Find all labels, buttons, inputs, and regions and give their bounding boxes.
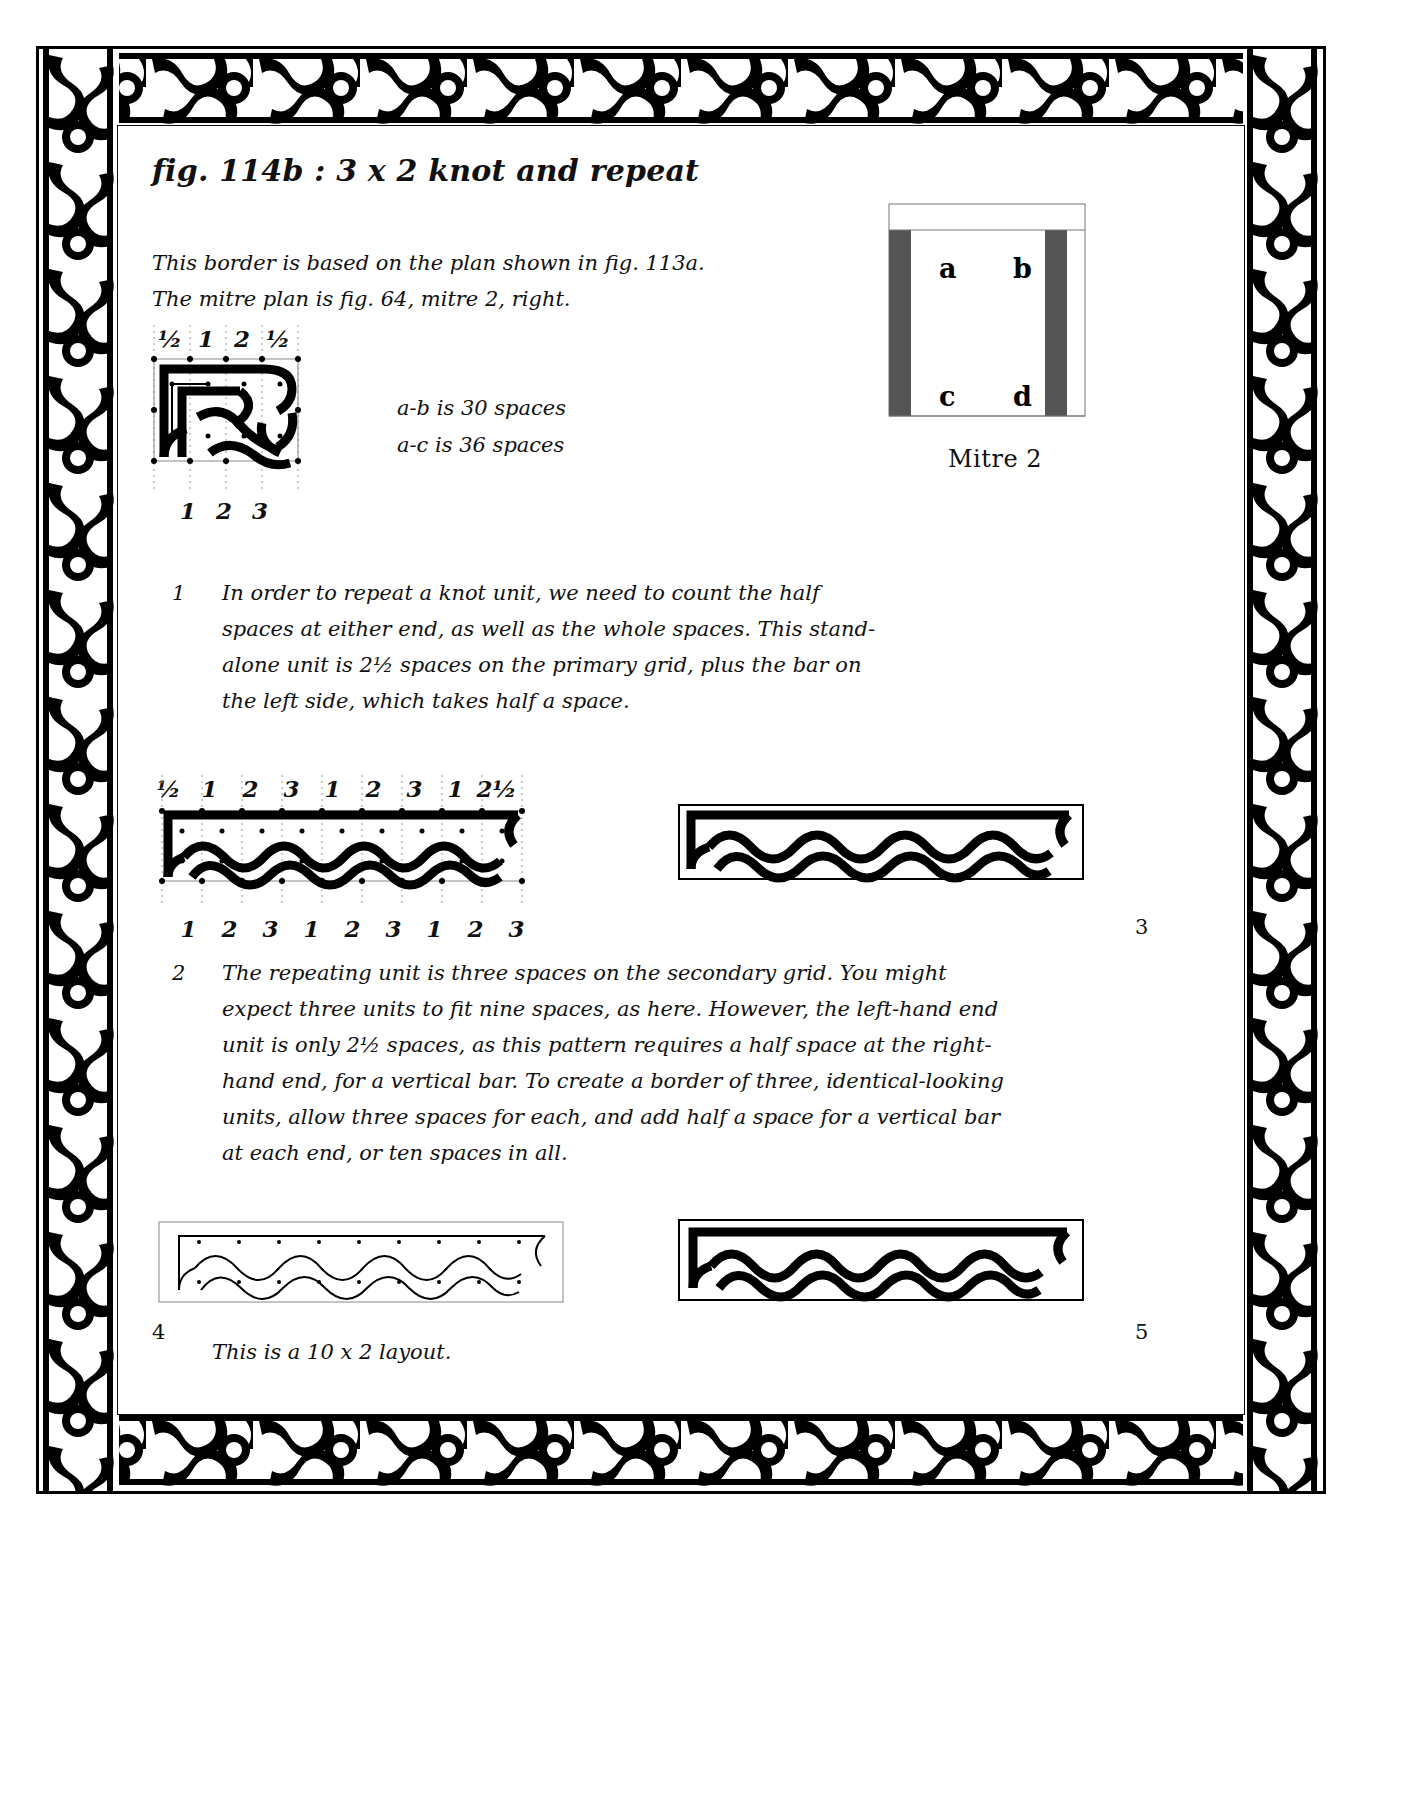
finished-border-fig5 [677, 1218, 1097, 1308]
finished-border-fig5-svg [677, 1218, 1087, 1306]
unit-top-label-2: 2 [224, 325, 260, 352]
repeat-top-label-3: 3 [271, 775, 312, 802]
intro-line-2: The mitre plan is fig. 64, mitre 2, righ… [152, 281, 852, 317]
border-knot-left [39, 49, 119, 1491]
unit-bottom-label-1: 2 [206, 497, 242, 524]
mitre-label-d: d [1013, 381, 1032, 412]
intro-line-1: This border is based on the plan shown i… [152, 245, 852, 281]
layout-caption: This is a 10 x 2 layout. [212, 1340, 451, 1364]
border-knot-top [39, 49, 1323, 127]
layout-fig4-svg [157, 1220, 567, 1308]
repeat-top-label-6: 3 [394, 775, 435, 802]
mitre-label-c: c [939, 381, 955, 412]
paragraph-2-text: The repeating unit is three spaces on th… [222, 961, 1004, 1165]
repeat-top-label-7: 1 [435, 775, 476, 802]
unit-top-label-1: 1 [188, 325, 224, 352]
unit-knot-diagram: ½ 1 2 ½ [152, 325, 327, 515]
mitre-label-b: b [1013, 253, 1032, 284]
figure-number-3: 3 [1135, 915, 1148, 939]
spaces-note-line-2: a-c is 36 spaces [397, 427, 566, 464]
repeat-top-label-0: ½ [148, 775, 189, 802]
intro-paragraph: This border is based on the plan shown i… [152, 245, 852, 317]
repeat-knot-svg [162, 809, 562, 909]
border-knot-right [1243, 49, 1323, 1491]
repeat-bottom-label-8: 3 [496, 915, 537, 942]
finished-border-fig3 [677, 803, 1097, 883]
repeat-bottom-label-0: 1 [168, 915, 209, 942]
repeat-top-label-5: 2 [353, 775, 394, 802]
repeat-bottom-label-3: 1 [291, 915, 332, 942]
page-content: fig. 114b : 3 x 2 knot and repeat This b… [117, 125, 1245, 1415]
mitre-plan-svg: a b c d [885, 200, 1105, 430]
mitre-caption: Mitre 2 [885, 445, 1105, 473]
repeat-bottom-label-5: 3 [373, 915, 414, 942]
repeat-top-label-1: 1 [189, 775, 230, 802]
repeat-top-label-2: 2 [230, 775, 271, 802]
repeat-bottom-label-7: 2 [455, 915, 496, 942]
paragraph-2-number: 2 [172, 955, 185, 991]
unit-top-label-3: ½ [260, 325, 296, 352]
finished-border-fig3-svg [677, 803, 1087, 881]
unit-top-label-0: ½ [152, 325, 188, 352]
mitre-label-a: a [939, 253, 957, 284]
page-root: fig. 114b : 3 x 2 knot and repeat This b… [0, 0, 1401, 1812]
paragraph-1: 1 In order to repeat a knot unit, we nee… [222, 575, 882, 719]
repeat-bottom-label-2: 3 [250, 915, 291, 942]
spaces-note-line-1: a-b is 30 spaces [397, 390, 566, 427]
unit-knot-svg [152, 357, 327, 492]
repeat-knot-diagram: ½ 1 2 3 1 2 3 1 2½ [152, 775, 562, 940]
repeat-bottom-label-6: 1 [414, 915, 455, 942]
paragraph-1-text: In order to repeat a knot unit, we need … [222, 581, 875, 713]
page-title: fig. 114b : 3 x 2 knot and repeat [152, 153, 699, 188]
paragraph-2: 2 The repeating unit is three spaces on … [222, 955, 1012, 1171]
layout-fig4 [157, 1220, 577, 1310]
repeat-top-label-4: 1 [312, 775, 353, 802]
mitre-plan-diagram: a b c d [885, 200, 1105, 430]
repeat-bottom-label-1: 2 [209, 915, 250, 942]
figure-number-5: 5 [1135, 1320, 1148, 1344]
spaces-note: a-b is 30 spaces a-c is 36 spaces [397, 390, 566, 464]
paragraph-1-number: 1 [172, 575, 185, 611]
border-knot-bottom [39, 1411, 1323, 1491]
unit-bottom-label-0: 1 [170, 497, 206, 524]
unit-bottom-label-2: 3 [242, 497, 278, 524]
repeat-bottom-label-4: 2 [332, 915, 373, 942]
figure-number-4: 4 [152, 1320, 165, 1344]
